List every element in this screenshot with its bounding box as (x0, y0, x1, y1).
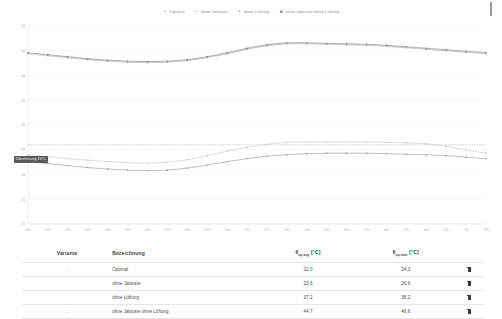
delete-icon[interactable] (467, 267, 471, 272)
table-row[interactable]: ·ohne Jalousie23,626,6 (22, 277, 484, 291)
series-data-point (306, 153, 307, 154)
table-row[interactable]: +Optimal22,024,3 (22, 263, 484, 277)
header-bezeichnung: Bezeichnung (112, 249, 259, 263)
legend-item-ohne-lueftung[interactable]: • ohne Lüftung (237, 9, 270, 14)
series-data-point (87, 167, 88, 168)
series-data-point (286, 43, 287, 44)
legend-item-ohne-jalousie-ohne-lueftung[interactable]: ■ ohne Jalousie ohne Lüftung (278, 9, 339, 14)
legend-label: Optimal (169, 9, 184, 14)
series-data-point (445, 146, 446, 147)
series-ohne-jalousie[interactable] (27, 141, 486, 164)
series-data-point (366, 45, 367, 46)
theta-subscript: op,max (396, 253, 408, 257)
series-data-point (246, 147, 247, 148)
temperature-line-chart[interactable]: 10152025303540455000h01h02h03h04h05h06h0… (14, 22, 492, 238)
series-data-point (47, 163, 48, 164)
x-axis-tick-label: 03h (85, 228, 91, 232)
series-line (28, 153, 486, 170)
series-data-point (426, 154, 427, 155)
series-data-point (386, 142, 387, 143)
series-data-point (445, 155, 446, 156)
series-data-point (286, 154, 287, 155)
series-data-point (187, 167, 188, 168)
table-row[interactable]: ohne Lüftung37,238,2 (22, 291, 484, 305)
series-data-point (47, 55, 48, 56)
row-theta-op-avg: 23,6 (259, 277, 357, 291)
row-theta-op-max: 46,6 (357, 305, 455, 319)
delete-icon-body (468, 310, 471, 314)
series-data-point (346, 153, 347, 154)
row-theta-op-max: 38,2 (357, 291, 455, 305)
series-optimal[interactable] (27, 153, 486, 172)
x-axis-tick-label: 08h (184, 228, 190, 232)
legend-item-optimal[interactable]: • Optimal (162, 9, 184, 14)
y-axis-tick-label: 25 (22, 148, 26, 152)
variants-table: Variante Bezeichnung θop,avg [°C] θop,ma… (22, 249, 484, 319)
x-axis-tick-label: 09h (204, 228, 210, 232)
series-data-point (386, 153, 387, 154)
y-axis-tick-label: 35 (22, 99, 26, 103)
x-axis-tick-label: 12h (264, 228, 270, 232)
series-data-point (326, 44, 327, 45)
x-axis-tick-label: 01h (45, 228, 51, 232)
dot-marker-icon: • (237, 9, 242, 14)
series-data-point (406, 154, 407, 155)
series-data-point (87, 59, 88, 60)
x-axis-tick-label: 06h (145, 228, 151, 232)
legend-label: ohne Lüftung (244, 9, 270, 14)
row-theta-op-max: 24,3 (357, 263, 455, 277)
series-data-point (67, 158, 68, 159)
series-data-point (485, 53, 486, 54)
series-data-point (167, 161, 168, 162)
row-theta-op-avg: 37,2 (259, 291, 357, 305)
delete-icon[interactable] (467, 295, 471, 300)
row-actions (455, 277, 484, 291)
series-data-point (147, 162, 148, 163)
series-data-point (465, 149, 466, 150)
series-data-point (366, 141, 367, 142)
row-variant-marker: + (22, 263, 112, 277)
x-axis-tick-label: 05h (125, 228, 131, 232)
dash-marker-icon: – (194, 9, 199, 14)
x-axis-tick-label: 20h (423, 228, 429, 232)
x-axis-tick-label: 23h (483, 228, 489, 232)
dot-marker-icon: • (162, 9, 167, 14)
table-body: +Optimal22,024,3·ohne Jalousie23,626,6oh… (22, 263, 484, 319)
delete-icon-body (468, 296, 471, 300)
series-data-point (107, 60, 108, 61)
series-data-point (187, 60, 188, 61)
series-ohne-jalousie-ohne-lüftung[interactable] (27, 42, 486, 62)
x-axis-tick-label: 10h (224, 228, 230, 232)
delete-icon[interactable] (467, 309, 471, 314)
header-variante: Variante (22, 249, 112, 263)
series-data-point (346, 141, 347, 142)
overheating-threshold-badge: Überhitzung 26°C (14, 156, 48, 163)
series-data-point (127, 61, 128, 62)
x-axis-tick-label: 02h (65, 228, 71, 232)
series-data-point (386, 46, 387, 47)
row-bezeichnung: ohne Jalousie (112, 277, 259, 291)
x-axis-tick-label: 18h (384, 228, 390, 232)
x-axis-tick-label: 14h (304, 228, 310, 232)
series-data-point (266, 155, 267, 156)
series-data-point (207, 164, 208, 165)
row-variant-marker (22, 291, 112, 305)
series-data-point (226, 151, 227, 152)
row-theta-op-avg: 44,7 (259, 305, 357, 319)
table-row[interactable]: +ohne Jalousie ohne Lüftung44,746,6 (22, 305, 484, 319)
legend-label: ohne Jalousie ohne Lüftung (285, 9, 339, 14)
legend-label: ohne Jalousie (201, 9, 228, 14)
series-data-point (346, 44, 347, 45)
delete-icon[interactable] (467, 281, 471, 286)
legend-item-ohne-jalousie[interactable]: – ohne Jalousie (194, 9, 228, 14)
series-data-point (147, 170, 148, 171)
row-theta-op-max: 26,6 (357, 277, 455, 291)
series-data-point (406, 142, 407, 143)
series-data-point (366, 153, 367, 154)
row-theta-op-avg: 22,0 (259, 263, 357, 277)
x-axis-tick-label: 19h (404, 228, 410, 232)
series-data-point (406, 47, 407, 48)
x-axis-tick-label: 17h (364, 228, 370, 232)
series-data-point (107, 168, 108, 169)
y-axis-tick-label: 30 (22, 123, 26, 127)
